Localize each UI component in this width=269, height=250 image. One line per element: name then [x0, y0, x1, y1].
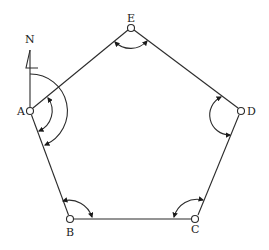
interior-arc-A	[39, 98, 52, 131]
edge-EA	[33, 30, 128, 108]
interior-arc-D	[210, 97, 230, 135]
station-C-marker	[192, 216, 199, 223]
station-B-marker	[67, 216, 74, 223]
station-D-marker	[238, 108, 245, 115]
north-label: N	[25, 33, 35, 46]
station-A-label: A	[16, 105, 26, 118]
edge-CD	[198, 115, 239, 215]
traverse-diagram: N A B C D E	[0, 0, 269, 250]
station-D-label: D	[247, 105, 256, 118]
station-C-label: C	[191, 223, 199, 236]
station-E-label: E	[127, 12, 135, 25]
interior-arc-B	[63, 200, 92, 217]
station-B-label: B	[66, 226, 74, 239]
traverse-edges	[32, 30, 240, 219]
interior-arc-E	[115, 41, 147, 48]
station-A-marker	[27, 108, 34, 115]
edge-AB	[32, 115, 69, 215]
north-arrow-icon	[26, 50, 38, 107]
station-E-marker	[128, 25, 135, 32]
edge-DE	[134, 30, 238, 108]
